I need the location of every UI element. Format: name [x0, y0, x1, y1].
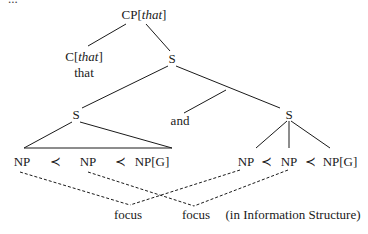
- word-that: that: [74, 66, 94, 80]
- node-s-right: S: [285, 108, 292, 122]
- np-left-g: NP[G]: [135, 155, 170, 169]
- information-structure-note: (in Information Structure): [225, 208, 360, 222]
- np-right-1: NP: [238, 155, 255, 169]
- np-left-1: NP: [14, 155, 31, 169]
- precedes-symbol: ≺: [261, 155, 272, 169]
- focus-label-1: focus: [114, 208, 142, 222]
- caption-fragment: ...: [8, 0, 18, 7]
- word-and: and: [171, 114, 190, 128]
- node-s-top: S: [168, 52, 175, 66]
- node-s-left: S: [72, 108, 79, 122]
- np-right-2: NP: [281, 155, 298, 169]
- node-label: C: [65, 49, 74, 64]
- np-right-g: NP[G]: [323, 155, 358, 169]
- node-feature: that: [142, 7, 162, 22]
- syntax-tree-diagram: ... CP[that] C[that] that S S and S NP ≺…: [0, 0, 368, 234]
- precedes-symbol: ≺: [50, 155, 61, 169]
- node-c: C[that]: [65, 50, 103, 64]
- node-cp: CP[that]: [122, 8, 167, 22]
- focus-label-2: focus: [182, 208, 210, 222]
- precedes-symbol: ≺: [115, 155, 126, 169]
- node-feature: that: [78, 49, 98, 64]
- precedes-symbol: ≺: [305, 155, 316, 169]
- np-left-2: NP: [80, 155, 97, 169]
- node-label: CP: [122, 7, 138, 22]
